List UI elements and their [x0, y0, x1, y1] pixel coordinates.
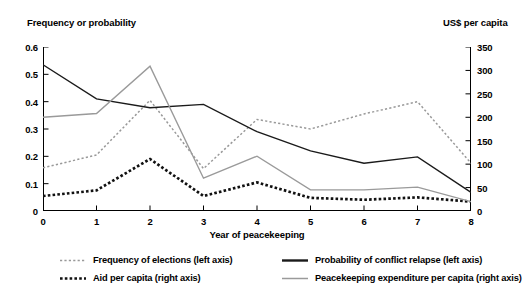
- right-y-tick-label: 150: [477, 135, 492, 146]
- dotted-gray-line-icon: [60, 256, 86, 265]
- right-axis-title: US$ per capita: [443, 17, 508, 28]
- x-tick-label: 6: [361, 216, 366, 227]
- right-y-tick-label: 250: [477, 88, 492, 99]
- plot-area: [43, 47, 471, 211]
- left-y-tick-label: 0.5: [25, 69, 38, 80]
- legend-item[interactable]: Probability of conflict relapse (left ax…: [282, 255, 490, 265]
- x-tick-label: 8: [468, 216, 473, 227]
- left-y-tick-label: 0.6: [25, 42, 38, 53]
- solid-black-line-icon: [282, 256, 308, 265]
- dotted-black-line-icon: [60, 274, 86, 283]
- x-tick-label: 3: [201, 216, 206, 227]
- left-y-tick-label: 0.3: [25, 124, 38, 135]
- right-y-tick-label: 300: [477, 65, 492, 76]
- left-y-tick-label: 0.1: [25, 178, 38, 189]
- legend-label: Peacekeeping expenditure per capita (rig…: [315, 273, 522, 283]
- x-axis-label: Year of peacekeeping: [209, 229, 304, 240]
- legend-item[interactable]: Peacekeeping expenditure per capita (rig…: [282, 273, 490, 283]
- x-tick-label: 0: [40, 216, 45, 227]
- x-tick-label: 4: [254, 216, 259, 227]
- left-y-tick-label: 0.2: [25, 151, 38, 162]
- right-y-tick-label: 0: [477, 206, 482, 217]
- chart-figure: Frequency or probability US$ per capita …: [0, 0, 531, 307]
- left-y-tick-label: 0.4: [25, 96, 38, 107]
- right-y-tick-label: 200: [477, 112, 492, 123]
- x-tick-label: 5: [308, 216, 313, 227]
- solid-gray-line-icon: [282, 274, 308, 283]
- right-y-tick-label: 100: [477, 159, 492, 170]
- plot-svg: [43, 47, 471, 211]
- right-y-tick-label: 50: [477, 182, 487, 193]
- x-tick-label: 2: [147, 216, 152, 227]
- right-y-tick-label: 350: [477, 42, 492, 53]
- legend-item[interactable]: Aid per capita (right axis): [60, 273, 282, 283]
- x-tick-label: 1: [94, 216, 99, 227]
- left-axis-title: Frequency or probability: [27, 17, 136, 28]
- legend-item[interactable]: Frequency of elections (left axis): [60, 255, 282, 265]
- series-line-2: [43, 159, 471, 202]
- legend-label: Frequency of elections (left axis): [93, 255, 233, 265]
- series-line-1: [43, 65, 471, 193]
- legend-label: Probability of conflict relapse (left ax…: [315, 255, 482, 265]
- x-tick-label: 7: [415, 216, 420, 227]
- chart-legend: Frequency of elections (left axis)Probab…: [60, 251, 490, 287]
- left-y-tick-label: 0: [33, 206, 38, 217]
- legend-label: Aid per capita (right axis): [93, 273, 201, 283]
